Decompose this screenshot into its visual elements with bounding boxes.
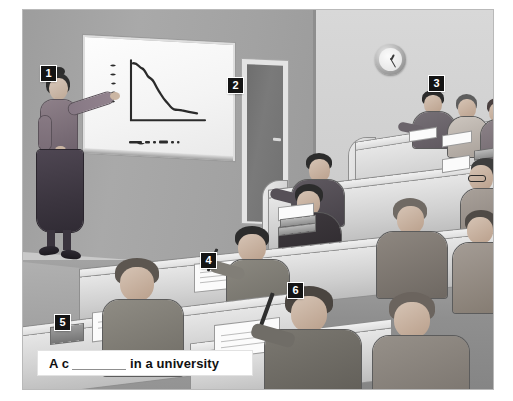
lecturer-pointing-arm [67, 91, 114, 116]
callout-tag-6[interactable]: 6 [288, 283, 303, 298]
lecturer-shoe-right [61, 249, 82, 260]
clock-minute-hand [390, 59, 395, 67]
callout-tag-5[interactable]: 5 [55, 315, 70, 330]
lecturer-lower-arm [39, 116, 51, 150]
student-torso [373, 336, 469, 389]
student-head [397, 206, 424, 234]
illustration-frame: 1 2 3 4 5 6 A c in a university [22, 9, 494, 390]
callout-tag-4[interactable]: 4 [201, 253, 216, 268]
student-head [458, 99, 476, 119]
lecturer-skirt [37, 150, 83, 232]
student-head [291, 296, 327, 332]
graph-x-axis-scribble [129, 133, 191, 141]
student-head [467, 217, 493, 244]
student-head [238, 234, 266, 262]
wall-clock-icon [375, 44, 406, 75]
lecturer [33, 72, 123, 282]
lecturer-leg-right [63, 230, 71, 250]
student-head [120, 267, 154, 301]
student-head [394, 302, 430, 338]
classroom-scene: 1 2 3 4 5 6 A c in a university [23, 10, 493, 389]
callout-tag-2[interactable]: 2 [228, 78, 243, 93]
glasses-icon [468, 175, 486, 182]
student-head [309, 159, 330, 182]
callout-tag-1[interactable]: 1 [41, 66, 56, 81]
caption-box: A c in a university [38, 351, 252, 375]
lecturer-shoe-left [38, 245, 59, 257]
lecturer-pointing-hand [110, 92, 120, 100]
clock-pin [390, 58, 392, 60]
caption-blank-line[interactable] [72, 358, 126, 370]
caption-suffix: in a university [130, 356, 219, 371]
illustration-page: 1 2 3 4 5 6 A c in a university [0, 0, 513, 401]
student-torso [453, 243, 493, 313]
clock-face [379, 48, 402, 71]
caption-prefix: A c [49, 356, 69, 371]
door-handle-icon [273, 138, 281, 141]
whiteboard-line-graph [121, 58, 209, 130]
callout-tag-3[interactable]: 3 [429, 76, 444, 91]
student-torso [377, 232, 447, 298]
